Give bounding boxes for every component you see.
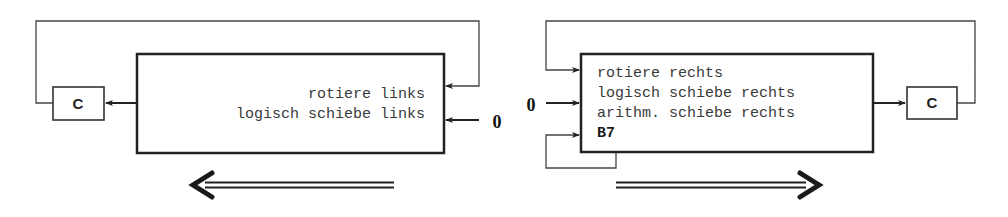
left-carry-label: C [73,95,84,112]
right-box-line-2: logisch schiebe rechts [597,85,795,102]
right-box-line-1: rotiere rechts [597,65,723,82]
left-direction-arrow-icon [193,173,394,197]
right-shift-diagram: rotiere rechts logisch schiebe rechts ar… [527,21,976,197]
left-box-line-1: rotiere links [308,86,425,103]
left-zero-label: 0 [493,112,502,132]
left-shift-diagram: rotiere links logisch schiebe links C 0 [36,21,502,197]
shift-rotate-diagram: rotiere links logisch schiebe links C 0 … [0,0,1008,217]
right-direction-arrow-icon [616,173,819,197]
right-zero-label: 0 [527,95,536,115]
left-register-box [137,54,444,153]
right-box-line-3: arithm. schiebe rechts [597,105,795,122]
right-carry-label: C [927,94,938,111]
right-bit-label: B7 [597,125,615,142]
left-box-line-2: logisch schiebe links [236,106,425,123]
